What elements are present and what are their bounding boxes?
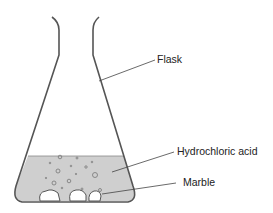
flask-label: Flask	[157, 53, 182, 65]
marble-label: Marble	[183, 176, 215, 188]
flask-diagram	[0, 0, 273, 213]
hydrochloric-acid-label: Hydrochloric acid	[177, 145, 258, 157]
